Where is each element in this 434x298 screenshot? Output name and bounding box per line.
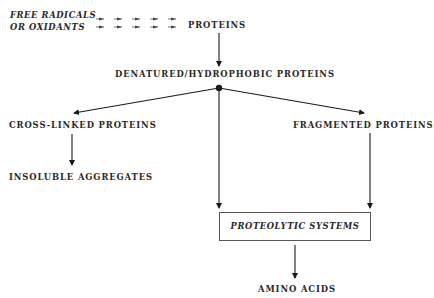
source-label-line1: FREE RADICALS <box>10 10 96 20</box>
node-denatured-proteins: DENATURED/HYDROPHOBIC PROTEINS <box>115 69 335 79</box>
node-proteins: PROTEINS <box>188 20 246 30</box>
node-proteolytic-systems-box: PROTEOLYTIC SYSTEMS <box>219 212 371 241</box>
source-label-line2: OR OXIDANTS <box>10 22 85 32</box>
diagram-connectors <box>0 0 434 298</box>
node-amino-acids: AMINO ACIDS <box>258 284 336 294</box>
node-cross-linked-proteins: CROSS-LINKED PROTEINS <box>9 120 157 130</box>
branch-node <box>216 85 222 91</box>
node-insoluble-aggregates: INSOLUBLE AGGREGATES <box>9 172 153 182</box>
node-fragmented-proteins: FRAGMENTED PROTEINS <box>293 120 434 130</box>
node-proteolytic-systems: PROTEOLYTIC SYSTEMS <box>220 221 370 231</box>
dashed-arrows <box>96 19 176 27</box>
